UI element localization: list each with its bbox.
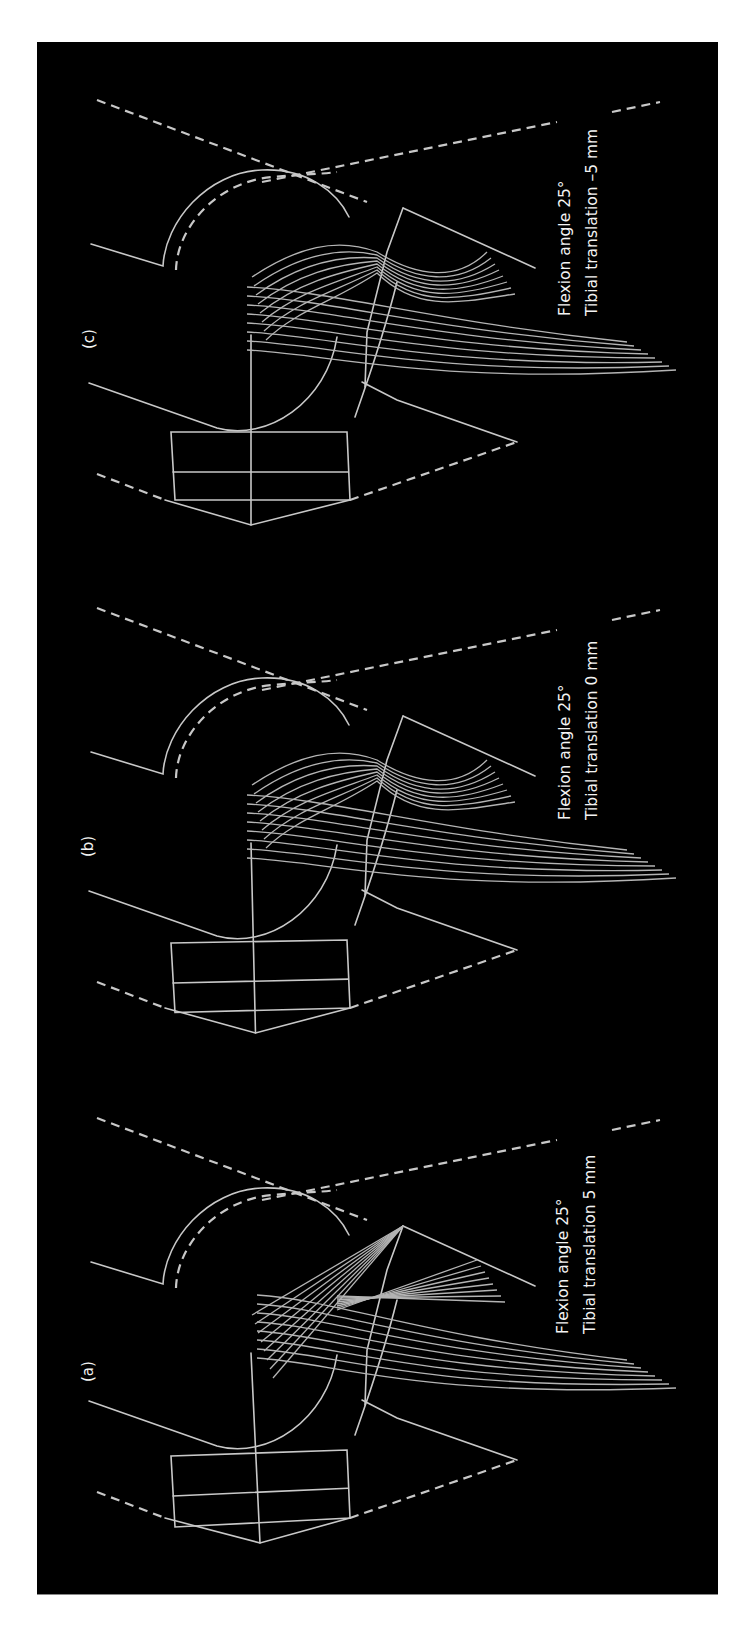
tibia-outline-upper xyxy=(403,716,535,776)
patella-box xyxy=(171,940,350,1013)
flexion-angle-label: Flexion angle 25° xyxy=(552,641,579,820)
femur-dashed-arc xyxy=(176,680,337,778)
tibia-outline-upper xyxy=(403,1226,535,1286)
femur-outline xyxy=(91,678,349,774)
lower-dashed-right xyxy=(350,442,517,500)
tibia-outline-lower xyxy=(362,1400,517,1460)
tibia-base-v xyxy=(165,500,350,525)
tibia-axis-dashed xyxy=(262,1140,557,1200)
tibia-outline-lower xyxy=(362,890,517,950)
ligament-fibers xyxy=(247,753,676,882)
femur-dashed-arc xyxy=(176,1190,337,1288)
patella-midline xyxy=(173,1488,348,1496)
femur-condyle-lower xyxy=(89,845,337,939)
femur-outline xyxy=(91,1188,349,1284)
tibia-base-v xyxy=(165,1518,350,1543)
tibia-inner-line xyxy=(365,208,403,387)
femur-outline xyxy=(91,170,349,266)
tibial-translation-label: Tibial translation 5 mm xyxy=(577,1155,604,1334)
tibia-axis-dashed xyxy=(262,122,557,182)
patella-box xyxy=(171,1450,350,1527)
tibia-axis-dashed-ext xyxy=(612,102,660,112)
tibia-outline-lower xyxy=(362,382,517,442)
flexion-angle-label: Flexion angle 25° xyxy=(552,129,579,316)
patella-box xyxy=(171,432,350,500)
panel-label-a: (a) xyxy=(79,1361,97,1382)
lower-dashed-right xyxy=(350,950,517,1008)
knee-ligament-figure: (c) Flexion angle 25° Tibial translation… xyxy=(37,42,718,1595)
femur-dashed-arc xyxy=(176,172,337,270)
tibia-outline-upper xyxy=(403,208,535,268)
patella-midline xyxy=(173,979,348,983)
tibial-translation-label: Tibial translation 0 mm xyxy=(579,641,606,820)
panel-label-b: (b) xyxy=(79,836,97,857)
femur-axis-dashed xyxy=(97,608,367,710)
tibia-axis-dashed-ext xyxy=(612,610,660,620)
tibia-axis-dashed xyxy=(262,630,557,690)
ligament-fibers xyxy=(252,1226,676,1390)
lower-dashed-left xyxy=(97,474,165,500)
lower-dashed-left xyxy=(97,1492,165,1518)
lower-dashed-right xyxy=(350,1460,517,1518)
panel-caption-a: Flexion angle 25° Tibial translation 5 m… xyxy=(550,1155,604,1334)
flexion-angle-label: Flexion angle 25° xyxy=(550,1155,577,1334)
panel-label-c: (c) xyxy=(80,329,98,349)
femur-axis-dashed xyxy=(97,100,367,202)
ligament-fibers xyxy=(247,245,676,374)
tibia-inner-line xyxy=(365,716,403,895)
femur-condyle-lower xyxy=(89,337,337,431)
panel-caption-c: Flexion angle 25° Tibial translation –5 … xyxy=(552,129,606,316)
femur-axis-dashed xyxy=(97,1118,367,1220)
lower-dashed-left xyxy=(97,982,165,1008)
panel-caption-b: Flexion angle 25° Tibial translation 0 m… xyxy=(552,641,606,820)
figure-drawing xyxy=(37,42,718,1594)
femur-condyle-lower xyxy=(89,1355,337,1449)
tibia-axis-dashed-ext xyxy=(612,1120,660,1130)
tibial-translation-label: Tibial translation –5 mm xyxy=(579,129,606,316)
